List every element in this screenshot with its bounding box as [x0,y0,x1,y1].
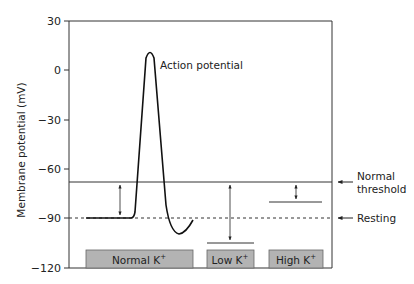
svg-text:High K+: High K+ [276,253,316,266]
superscript-plus: + [310,253,316,261]
high-k-label: High K [276,254,311,266]
superscript-plus: + [243,253,249,261]
normal-k-label: Normal K [112,254,161,266]
y-axis-labels: 30 0 −30 −60 −90 −120 [31,15,61,275]
tick-30: 30 [47,15,61,28]
action-potential-curve [86,53,193,235]
high-k-box: High K+ [269,250,323,268]
action-potential-label: Action potential [160,59,243,71]
normal-threshold-label-line2: threshold [357,183,406,195]
tick-neg120: −120 [31,262,61,275]
tick-neg90: −90 [38,212,61,225]
resting-label: Resting [357,212,396,224]
tick-0: 0 [54,64,61,77]
normal-threshold-label-line1: Normal [357,170,395,182]
y-axis-title: Membrane potential (mV) [15,82,27,217]
diagram: 30 0 −30 −60 −90 −120 Membrane potential… [0,0,414,284]
low-k-box: Low K+ [207,250,254,268]
tick-neg30: −30 [38,114,61,127]
tick-neg60: −60 [38,163,61,176]
normal-k-box: Normal K+ [86,250,193,268]
svg-text:Normal K+: Normal K+ [112,253,166,266]
superscript-plus: + [160,253,166,261]
low-k-label: Low K [212,254,244,266]
y-axis-ticks [64,21,69,268]
